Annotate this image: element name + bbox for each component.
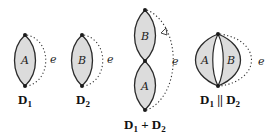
- top-node: [216, 32, 220, 36]
- arrow-head-icon: [161, 28, 167, 35]
- edge-label-e: e: [50, 53, 57, 66]
- diagram-canvas: A e D1 B e D2 B A e D1 + D2 A B e D1 |: [0, 0, 275, 134]
- region-label-a: A: [140, 80, 149, 93]
- region-label-b: B: [140, 30, 149, 43]
- top-node: [23, 33, 27, 37]
- bottom-node: [80, 84, 84, 88]
- region-label-b: B: [226, 54, 235, 67]
- region-label-b: B: [77, 54, 86, 67]
- top-node: [80, 33, 84, 37]
- region-label-a: A: [20, 54, 29, 67]
- bottom-node: [23, 84, 27, 88]
- caption-d2: D2: [76, 92, 90, 109]
- caption-d1-plus-d2: D1 + D2: [124, 117, 166, 134]
- bottom-node: [216, 84, 220, 88]
- diagram-d1: A e D1: [15, 33, 58, 109]
- region-label-a: A: [200, 54, 209, 67]
- diagram-d1-plus-d2: B A e D1 + D2: [124, 8, 179, 134]
- edge-label-e: e: [258, 55, 265, 68]
- bottom-node: [143, 108, 147, 112]
- middle-node: [143, 59, 147, 63]
- edge-label-e: e: [107, 53, 114, 66]
- edge-label-e: e: [172, 55, 179, 68]
- caption-d1: D1: [18, 92, 32, 109]
- diagram-d2: B e D2: [72, 33, 115, 109]
- caption-d1-parallel-d2: D1 || D2: [200, 92, 241, 109]
- top-node: [143, 8, 147, 12]
- diagram-d1-parallel-d2: A B e D1 || D2: [196, 32, 266, 109]
